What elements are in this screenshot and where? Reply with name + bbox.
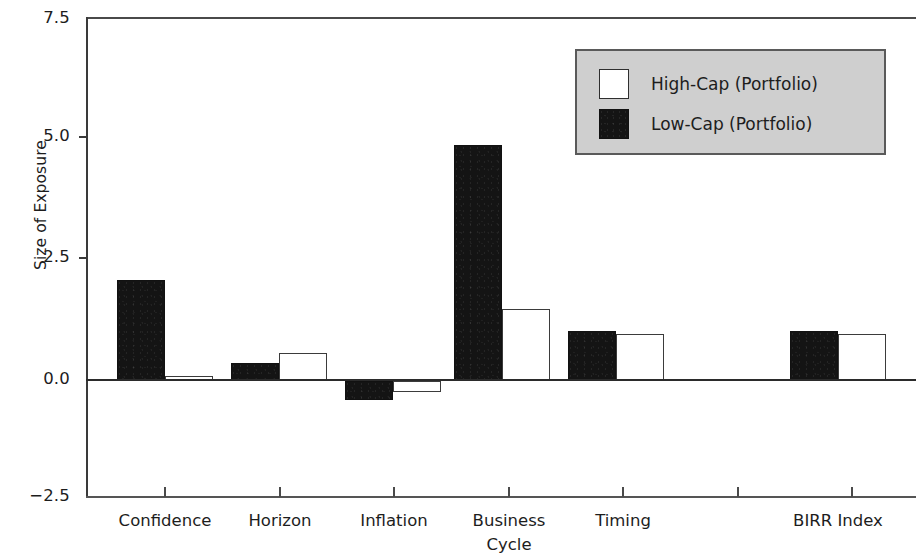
legend-entry-low-cap: Low-Cap (Portfolio) [599,107,812,141]
x-label-timing: Timing [544,509,702,533]
y-tick-label-5.0: 5.0 [8,126,70,145]
bar-low-cap-confidence [117,280,165,380]
bar-low-cap-inflation [345,381,393,400]
legend-label-low-cap: Low-Cap (Portfolio) [651,114,812,134]
legend-label-high-cap: High-Cap (Portfolio) [651,74,818,94]
bar-low-cap-business-cycle [454,145,502,380]
y-tick-label-0.0: 0.0 [8,369,70,388]
plot-top-border [86,17,916,19]
bar-low-cap-birr-index [790,331,838,380]
bar-high-cap-timing [616,334,664,380]
x-tick-mark-3 [393,487,395,497]
x-tick-mark-1 [164,487,166,497]
legend-entry-high-cap: High-Cap (Portfolio) [599,67,818,101]
legend: High-Cap (Portfolio) Low-Cap (Portfolio) [575,49,886,155]
bar-low-cap-timing [568,331,616,380]
bar-high-cap-birr-index [838,334,886,380]
x-tick-mark-5 [622,487,624,497]
zero-baseline [86,379,916,381]
legend-swatch-black-icon [599,109,629,139]
bar-high-cap-horizon [279,353,327,380]
x-tick-mark-4 [508,487,510,497]
bar-high-cap-inflation [393,381,441,392]
x-tick-mark-6 [737,487,739,497]
x-axis-line [86,496,916,498]
bar-high-cap-business-cycle [502,309,550,380]
y-tick-label--2.5: −2.5 [8,486,70,505]
x-tick-mark-7 [851,487,853,497]
x-tick-mark-2 [279,487,281,497]
y-axis-line [86,17,88,498]
x-label-birr-index: BIRR Index [759,509,916,533]
y-tick-label-7.5: 7.5 [8,8,70,27]
bar-chart: Size of Exposure 7.5 5.0 2.5 0.0 −2.5 Co… [0,0,916,559]
bar-low-cap-horizon [231,363,279,380]
legend-swatch-white-icon [599,69,629,99]
y-tick-label-2.5: 2.5 [8,247,70,266]
